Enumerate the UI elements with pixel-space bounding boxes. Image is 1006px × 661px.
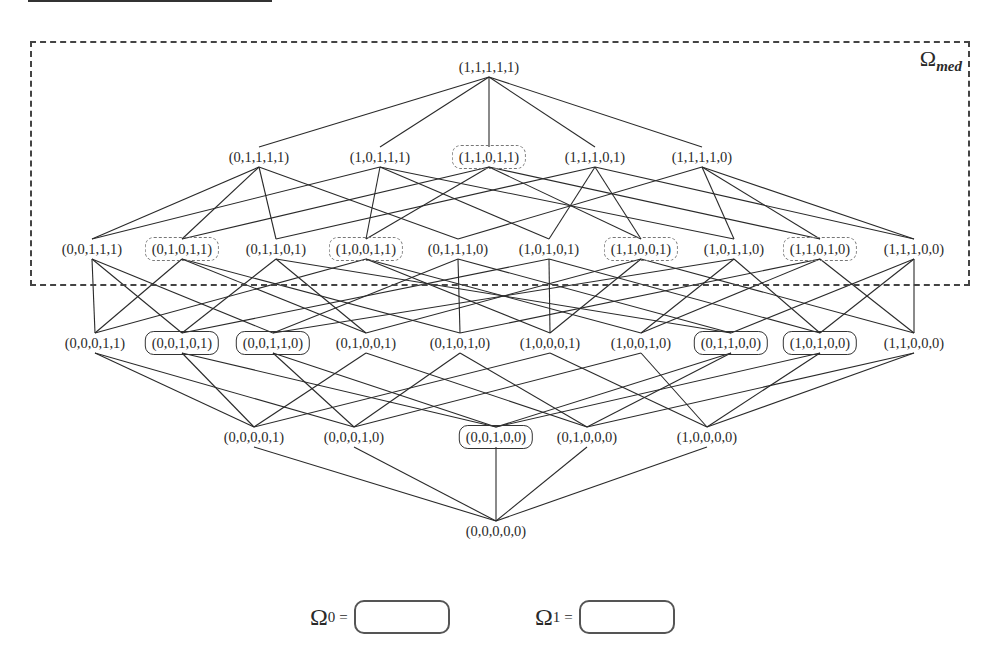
lattice-node: (1,1,1,1,1) [453, 56, 525, 78]
legend-solid-box [354, 600, 450, 634]
legend-symbol: Ω [535, 604, 553, 631]
lattice-node: (0,1,1,0,1) [240, 238, 312, 260]
lattice-node: (0,1,0,0,1) [330, 332, 402, 354]
legend-omega-1: Ω1 = [535, 600, 675, 634]
lattice-node: (0,0,0,1,0) [318, 426, 390, 448]
legend-omega-0: Ω0 = [310, 600, 450, 634]
lattice-node: (1,1,1,0,0) [878, 238, 950, 260]
lattice-node: (0,1,1,1,0) [422, 238, 494, 260]
lattice-node: (1,1,1,1,0) [666, 146, 738, 168]
lattice-node: (0,0,0,1,1) [59, 332, 131, 354]
lattice-node: (1,1,0,1,0) [783, 237, 857, 261]
lattice-node: (1,0,1,0,0) [783, 331, 857, 355]
lattice-node: (0,1,1,0,0) [694, 331, 768, 355]
lattice-node: (1,0,1,0,1) [513, 238, 585, 260]
lattice-node: (0,0,1,0,1) [145, 331, 219, 355]
lattice-node: (0,0,1,1,1) [56, 238, 128, 260]
lattice-node: (1,0,1,1,0) [698, 238, 770, 260]
lattice-node: (1,1,0,0,0) [878, 332, 950, 354]
lattice-node: (1,1,1,0,1) [559, 146, 631, 168]
lattice-node: (0,0,1,1,0) [236, 331, 310, 355]
lattice-node: (1,0,1,1,1) [344, 146, 416, 168]
lattice-node: (0,1,0,1,0) [424, 332, 496, 354]
lattice-node: (1,0,0,1,1) [329, 237, 403, 261]
lattice-node: (0,1,1,1,1) [223, 146, 295, 168]
lattice-node: (1,0,0,0,1) [514, 332, 586, 354]
lattice-node: (1,1,0,0,1) [604, 237, 678, 261]
lattice-node: (0,0,0,0,1) [218, 426, 290, 448]
lattice-node: (0,1,0,0,0) [551, 426, 623, 448]
lattice-node: (0,0,1,0,0) [459, 425, 533, 449]
legend-dotted-box [579, 600, 675, 634]
legend-symbol: Ω [310, 604, 328, 631]
lattice-node: (0,1,0,1,1) [145, 237, 219, 261]
omega-med-label: Ωmed [920, 46, 962, 75]
lattice-node: (1,1,0,1,1) [452, 145, 526, 169]
lattice-node: (1,0,0,0,0) [671, 426, 743, 448]
lattice-node: (0,0,0,0,0) [460, 520, 532, 542]
lattice-node: (1,0,0,1,0) [605, 332, 677, 354]
